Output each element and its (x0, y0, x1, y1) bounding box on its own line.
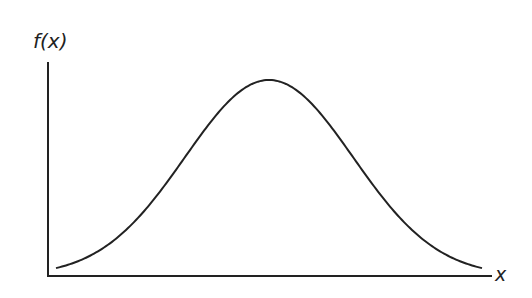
x-axis-label: x (494, 263, 507, 285)
y-axis-label: f(x) (33, 29, 67, 53)
bell-curve (56, 80, 482, 268)
bell-curve-diagram: f(x) x (0, 0, 532, 298)
